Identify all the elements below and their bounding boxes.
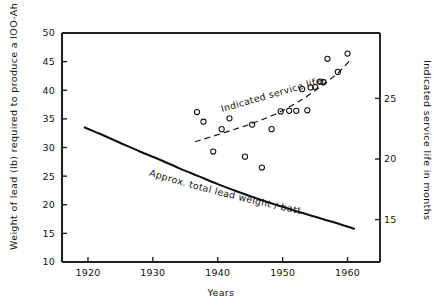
chart-background — [0, 0, 434, 305]
y-left-tick-label: 20 — [43, 199, 56, 210]
scatter-line-chart: 101520253035404550 152025 19201930194019… — [0, 0, 434, 305]
chart-figure: 101520253035404550 152025 19201930194019… — [0, 0, 434, 305]
y-axis-right-title: Indicated service life in months — [422, 60, 433, 220]
y-right-tick-label: 20 — [384, 153, 397, 164]
x-tick-label: 1960 — [335, 267, 360, 278]
x-tick-label: 1950 — [270, 267, 295, 278]
y-left-tick-label: 50 — [43, 27, 56, 38]
y-left-tick-label: 15 — [43, 228, 56, 239]
y-left-tick-label: 10 — [43, 256, 56, 267]
x-tick-label: 1920 — [75, 267, 100, 278]
y-left-tick-label: 25 — [43, 171, 56, 182]
x-axis-title: Years — [207, 287, 235, 298]
y-left-tick-label: 35 — [43, 113, 56, 124]
x-tick-label: 1930 — [140, 267, 165, 278]
y-right-tick-label: 25 — [384, 93, 397, 104]
y-left-tick-label: 45 — [43, 56, 56, 67]
y-right-tick-label: 15 — [384, 214, 397, 225]
x-tick-label: 1940 — [205, 267, 230, 278]
y-left-tick-label: 30 — [43, 142, 56, 153]
y-left-tick-label: 40 — [43, 85, 56, 96]
y-axis-left-title: Weight of lead (lb) required to produce … — [8, 0, 19, 250]
